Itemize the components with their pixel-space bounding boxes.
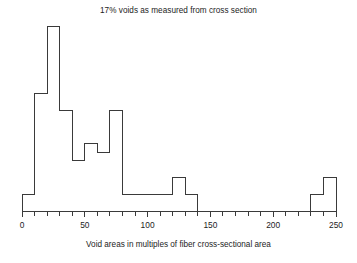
x-tick-label: 200	[266, 220, 280, 230]
x-tick-label: 0	[20, 220, 25, 230]
x-tick-label: 250	[329, 220, 343, 230]
x-tick-label: 100	[141, 220, 155, 230]
bars-group	[22, 26, 336, 211]
x-axis	[22, 211, 336, 217]
histogram-chart: 17% voids as measured from cross section…	[0, 0, 357, 263]
x-tick-label: 150	[203, 220, 217, 230]
histogram-outline	[22, 26, 336, 211]
x-tick-label: 50	[80, 220, 89, 230]
plot-area	[0, 0, 357, 263]
x-axis-label: Void areas in multiples of fiber cross-s…	[0, 240, 357, 249]
